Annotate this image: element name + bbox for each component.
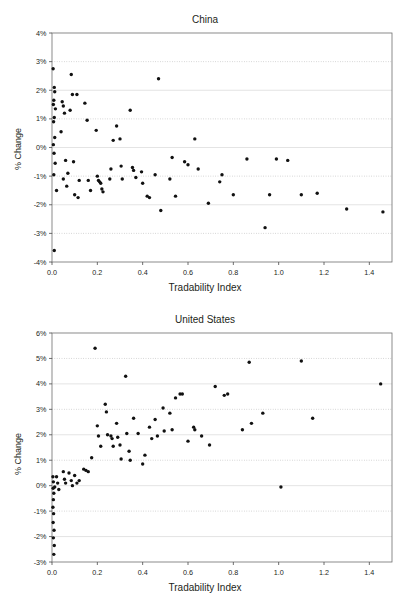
data-point <box>85 119 88 122</box>
data-point <box>261 411 264 414</box>
data-point <box>250 422 253 425</box>
data-point <box>132 169 135 172</box>
data-point <box>183 160 186 163</box>
data-point <box>51 506 54 509</box>
data-point <box>52 553 55 556</box>
data-point <box>93 347 96 350</box>
data-point <box>70 479 73 482</box>
data-point <box>379 382 382 385</box>
data-point <box>108 177 111 180</box>
data-point <box>141 182 144 185</box>
svg-text:0.4: 0.4 <box>138 268 148 277</box>
data-point <box>105 410 108 413</box>
clipped-header-text <box>0 0 410 1</box>
data-point <box>193 428 196 431</box>
svg-text:0.4: 0.4 <box>138 568 148 577</box>
data-point <box>52 512 55 515</box>
data-point <box>53 162 56 165</box>
data-point <box>381 210 384 213</box>
data-point <box>68 109 71 112</box>
data-point <box>52 528 55 531</box>
svg-text:0.0: 0.0 <box>47 568 57 577</box>
data-point <box>129 109 132 112</box>
data-point <box>104 403 107 406</box>
data-point <box>116 436 119 439</box>
data-point <box>119 164 122 167</box>
data-point <box>53 116 56 119</box>
data-point <box>345 207 348 210</box>
svg-text:-1%: -1% <box>34 507 47 516</box>
data-point <box>156 434 159 437</box>
data-point <box>136 432 139 435</box>
data-point <box>159 209 162 212</box>
x-axis-ticks: 0.00.20.40.60.81.01.21.4 <box>47 262 374 277</box>
data-point <box>56 481 59 484</box>
svg-text:1.2: 1.2 <box>319 268 329 277</box>
svg-text:0.6: 0.6 <box>183 568 193 577</box>
svg-text:0.8: 0.8 <box>228 568 238 577</box>
data-point <box>70 73 73 76</box>
data-point <box>186 163 189 166</box>
data-point <box>127 450 130 453</box>
data-point <box>153 173 156 176</box>
chart-panel-china: China % Change Tradability Index 4%3%2%1… <box>0 10 410 300</box>
svg-text:1.0: 1.0 <box>274 268 284 277</box>
data-point <box>168 411 171 414</box>
data-point <box>134 176 137 179</box>
svg-text:1.2: 1.2 <box>319 568 329 577</box>
data-point <box>99 445 102 448</box>
figure-page: China % Change Tradability Index 4%3%2%1… <box>0 0 410 600</box>
data-point <box>118 443 121 446</box>
data-point <box>62 177 65 180</box>
data-point <box>52 99 55 102</box>
data-point <box>112 445 115 448</box>
data-point <box>226 392 229 395</box>
svg-text:-3%: -3% <box>34 229 47 238</box>
scatter-plot-united-states: 6%5%4%3%2%1%0%-1%-2%-3%0.00.20.40.60.81.… <box>0 310 410 600</box>
svg-text:-2%: -2% <box>34 532 47 541</box>
data-points <box>51 347 382 557</box>
data-point <box>63 478 66 481</box>
data-point <box>54 107 57 110</box>
data-point <box>125 432 128 435</box>
data-point <box>89 189 92 192</box>
data-point <box>118 137 121 140</box>
data-point <box>52 536 55 539</box>
data-point <box>279 485 282 488</box>
data-point <box>161 406 164 409</box>
data-point <box>55 475 58 478</box>
svg-text:-4%: -4% <box>34 258 47 267</box>
data-point <box>64 159 67 162</box>
svg-text:-1%: -1% <box>34 172 47 181</box>
data-point <box>63 111 66 114</box>
svg-text:0.2: 0.2 <box>92 268 102 277</box>
data-point <box>300 359 303 362</box>
data-point <box>143 453 146 456</box>
data-point <box>62 104 65 107</box>
data-point <box>193 137 196 140</box>
data-point <box>157 77 160 80</box>
data-point <box>64 481 67 484</box>
data-point <box>78 479 81 482</box>
data-point <box>53 249 56 252</box>
data-point <box>52 143 55 146</box>
data-point <box>97 434 100 437</box>
data-point <box>109 167 112 170</box>
data-point <box>101 190 104 193</box>
y-axis-ticks: 6%5%4%3%2%1%0%-1%-2%-3% <box>34 329 52 567</box>
svg-text:0%: 0% <box>36 143 47 152</box>
gridlines <box>52 62 392 234</box>
data-point <box>106 433 109 436</box>
data-point <box>62 470 65 473</box>
svg-text:1.0: 1.0 <box>274 568 284 577</box>
svg-text:6%: 6% <box>36 329 47 338</box>
svg-text:1%: 1% <box>36 456 47 465</box>
svg-text:1.4: 1.4 <box>364 268 374 277</box>
x-axis-ticks: 0.00.20.40.60.81.01.21.4 <box>47 562 374 577</box>
data-point <box>170 156 173 159</box>
data-point <box>87 179 90 182</box>
data-point <box>311 417 314 420</box>
data-point <box>121 177 124 180</box>
data-point <box>174 396 177 399</box>
data-point <box>61 100 64 103</box>
